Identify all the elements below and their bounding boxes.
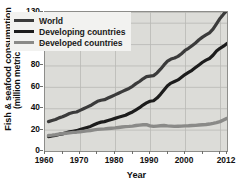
series-line — [49, 44, 228, 137]
x-axis-tick-mark — [149, 151, 150, 154]
legend-item[interactable]: Developed countries — [14, 37, 125, 48]
x-axis-tick-mark — [132, 151, 133, 154]
y-axis-tick-label: 20 — [20, 125, 40, 133]
x-axis-tick-mark — [184, 151, 185, 154]
y-axis-tick-label: 60 — [20, 82, 40, 90]
x-axis-tick-mark — [219, 151, 220, 154]
y-axis-tick-label: 80 — [20, 60, 40, 68]
legend-color-swatch — [14, 41, 34, 44]
chart-legend: WorldDeveloping countriesDeveloped count… — [10, 12, 131, 51]
y-axis-tick-mark — [40, 86, 43, 87]
y-axis-tick-mark — [40, 43, 43, 44]
x-axis-tick-mark — [202, 151, 203, 154]
x-axis-tick-label: 1980 — [97, 156, 131, 164]
legend-item[interactable]: World — [14, 15, 125, 26]
y-axis-tick-mark — [40, 64, 43, 65]
x-axis-tick-mark — [114, 151, 115, 154]
legend-item[interactable]: Developing countries — [14, 26, 125, 37]
y-axis-tick-mark — [40, 150, 43, 151]
y-axis-tick-mark — [40, 107, 43, 108]
x-axis-tick-label: 2012 — [209, 156, 241, 164]
series-line — [49, 118, 228, 135]
x-axis-tick-mark — [226, 151, 227, 154]
x-axis-tick-label: 1990 — [132, 156, 166, 164]
x-axis-tick-mark — [62, 151, 63, 154]
x-axis-tick-mark — [96, 151, 97, 154]
x-axis-tick-label: 2000 — [167, 156, 201, 164]
y-axis-tick-label: 0 — [20, 146, 40, 154]
y-axis-tick-mark — [40, 22, 43, 23]
chart-figure: Fish & seafood consumption (million metr… — [0, 0, 241, 185]
legend-color-swatch — [14, 19, 34, 22]
y-axis-tick-mark — [40, 129, 43, 130]
x-axis-tick-mark — [44, 151, 45, 154]
x-axis-tick-mark — [79, 151, 80, 154]
x-axis-tick-label: 1970 — [62, 156, 96, 164]
legend-label: World — [39, 16, 63, 26]
legend-label: Developed countries — [39, 38, 123, 48]
y-axis-tick-label: 40 — [20, 103, 40, 111]
x-axis-tick-mark — [167, 151, 168, 154]
x-axis-tick-label: 1960 — [27, 156, 61, 164]
x-axis-tick-labels: 196019701980199020002012 — [0, 156, 241, 168]
y-axis-tick-mark — [40, 11, 43, 12]
x-axis-label: Year — [44, 170, 229, 180]
legend-label: Developing countries — [39, 27, 125, 37]
legend-color-swatch — [14, 30, 34, 33]
